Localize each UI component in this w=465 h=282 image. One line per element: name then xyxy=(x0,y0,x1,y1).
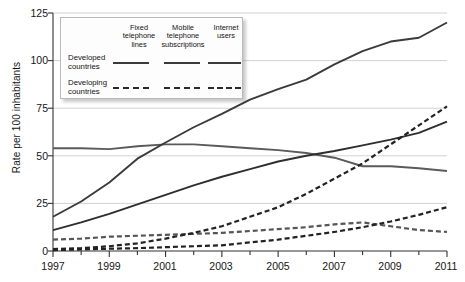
series-line-2 xyxy=(53,122,447,231)
legend-row-developed-countries: Developed countries xyxy=(68,53,105,71)
legend-row1-line1: Developed xyxy=(68,53,105,62)
legend-swatch-developed-mobile xyxy=(164,62,200,64)
legend-row-developing-countries: Developing countries xyxy=(68,78,107,96)
legend-col1-line3: lines xyxy=(131,40,146,49)
series-line-3 xyxy=(53,222,447,239)
legend-swatch-developing-mobile xyxy=(164,87,200,89)
legend-column-internet-users: Internet users xyxy=(206,24,246,41)
legend-swatch-developed-fixed xyxy=(113,62,149,64)
legend-column-mobile-telephone-subscriptions: Mobile telephone subscriptions xyxy=(155,24,211,49)
legend-swatch-developing-fixed xyxy=(113,87,149,89)
legend-col2-line3: subscriptions xyxy=(161,40,204,49)
legend-col3-line2: users xyxy=(217,31,235,40)
legend-swatch-developing-internet xyxy=(208,87,241,89)
legend-row1-line2: countries xyxy=(68,62,100,71)
legend: Fixed telephone lines Mobile telephone s… xyxy=(60,17,243,99)
legend-row2-line1: Developing xyxy=(68,78,107,87)
y-axis-ticks xyxy=(48,13,53,251)
legend-row2-line2: countries xyxy=(68,87,100,96)
chart-figure: Rate per 100 inhabitants 125 100 75 50 2… xyxy=(0,0,465,282)
series-line-4 xyxy=(53,106,447,249)
series-line-0 xyxy=(53,144,447,171)
legend-swatch-developed-internet xyxy=(208,62,241,64)
x-axis-ticks xyxy=(53,251,447,257)
